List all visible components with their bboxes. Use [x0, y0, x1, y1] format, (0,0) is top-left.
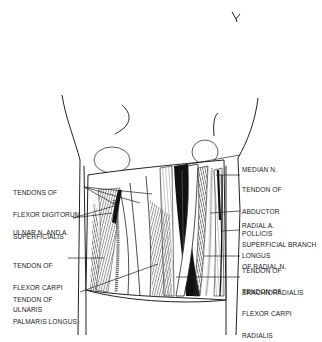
forearm-lower-edges	[86, 300, 226, 335]
label-tendon-palmaris-longus: TENDON OF PALMARIS LONGUS	[13, 281, 77, 333]
label-ulnar-nerve-and-artery: ULNAR N. AND A.	[13, 214, 68, 244]
hand-outline	[62, 12, 258, 160]
dissection-window	[86, 160, 226, 302]
label-tendon-flexor-carpi-radialis: TENDON OF FLEXOR CARPI RADIALIS	[242, 273, 292, 342]
